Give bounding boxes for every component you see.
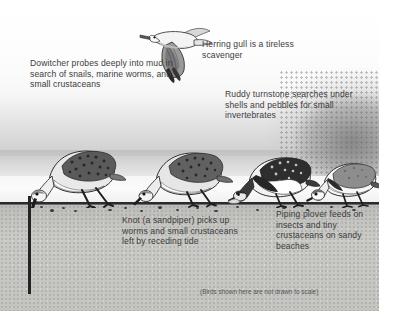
bird-knot: [133, 134, 233, 208]
caption-ruddy-turnstone: Ruddy turnstone searches under shells an…: [225, 89, 355, 121]
bird-dowitcher: [20, 130, 126, 208]
dowitcher-bill-probe: [28, 196, 31, 294]
illustration-scene: Dowitcher probes deeply into mud in sear…: [0, 0, 399, 328]
pebble: [214, 210, 218, 212]
caption-knot: Knot (a sandpiper) picks up worms and sm…: [122, 215, 252, 247]
pebble: [256, 209, 259, 211]
bird-piping-plover: [305, 150, 379, 208]
pebble: [50, 209, 54, 212]
pebble: [140, 210, 143, 212]
caption-dowitcher: Dowitcher probes deeply into mud in sear…: [30, 58, 190, 90]
pebble: [74, 210, 77, 212]
scale-disclaimer: (Birds shown here are not drawn to scale…: [200, 288, 375, 296]
pebble: [176, 209, 179, 211]
illustration-plate: Dowitcher probes deeply into mud in sear…: [0, 0, 379, 311]
caption-piping-plover: Piping plover feeds on insects and tiny …: [276, 209, 379, 251]
pebble: [108, 209, 112, 211]
caption-herring-gull: Herring gull is a tireless scavenger: [202, 39, 322, 60]
